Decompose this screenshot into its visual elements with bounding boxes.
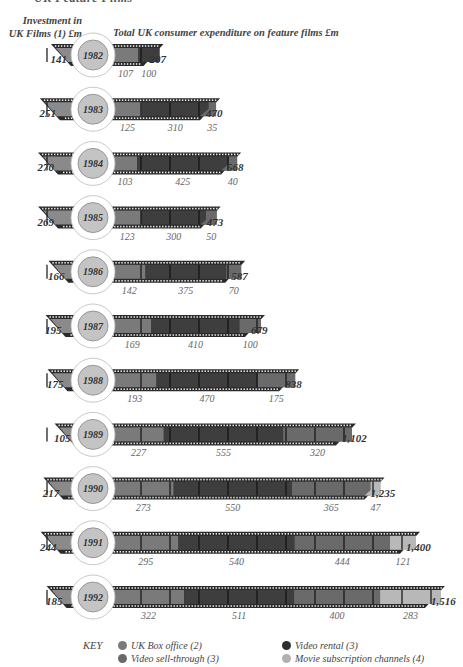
segment-value: 410 [188,339,203,350]
key-title: KEY [83,640,102,651]
total-value: 1,235 [371,487,396,499]
video-sell-through-swatch-icon [118,654,127,663]
key-item-movie-subscription: Movie subscription channels (4) [282,653,424,664]
segment-value: 100 [243,339,258,350]
total-value: 473 [206,216,224,228]
key-label-box-office: UK Box office (2) [131,640,202,651]
segment-value: 121 [395,556,410,567]
key-label-movie-subscription: Movie subscription channels (4) [295,653,424,664]
video-sell-through-segment [294,590,380,604]
segment-value: 125 [120,122,135,133]
segment-value: 169 [125,339,140,350]
key-label-video-rental: Video rental (3) [295,640,358,651]
investment-value: 175 [47,378,64,390]
year-label: 1986 [83,266,103,277]
total-value: 587 [231,270,248,282]
video-sell-through-segment [295,536,390,550]
video-rental-segment [174,482,292,496]
filmstrip-row-1982: 1982141207107100 [47,33,167,79]
year-label: 1983 [83,104,103,115]
video-rental-swatch-icon [282,641,291,650]
segment-value: 550 [225,502,240,513]
segment-value: 555 [216,447,231,458]
segment-value: 283 [403,610,418,621]
filmstrip-row-1987: 1987195679169410100 [45,304,268,350]
filmstrip-row-1984: 198427056810342540 [37,141,245,187]
total-value: 470 [205,107,223,119]
segment-value: 100 [141,68,156,79]
segment-value: 511 [232,610,246,621]
filmstrip-row-1989: 19891051,102227555320 [47,412,367,458]
investment-value: 251 [38,107,56,119]
filmstrip-row-1992: 19921851,516322511400283 [46,575,456,621]
segment-value: 70 [229,285,239,296]
investment-value: 195 [45,324,62,336]
key-item-video-sell-through: Video sell-through (3) [118,653,219,664]
video-rental-segment [151,319,239,333]
segment-value: 47 [370,502,381,513]
segment-value: 123 [120,231,135,242]
key-item-video-rental: Video rental (3) [282,640,358,651]
video-rental-segment [178,536,294,550]
total-value: 568 [227,161,244,173]
year-label: 1987 [83,321,104,332]
key-item-box-office: UK Box office (2) [118,640,202,651]
segment-value: 400 [330,610,345,621]
video-rental-segment [156,373,257,387]
total-value: 207 [149,53,167,65]
segment-value: 107 [118,68,134,79]
video-rental-segment [184,590,294,604]
investment-value: 269 [37,216,55,228]
segment-value: 300 [165,231,181,242]
investment-value: 185 [46,595,63,607]
filmstrip-row-1986: 198616658714237570 [47,250,248,296]
segment-value: 142 [122,285,137,296]
segment-value: 470 [200,393,215,404]
segment-value: 444 [335,556,350,567]
year-label: 1990 [83,483,103,494]
video-sell-through-segment [292,482,370,496]
investment-value: 244 [39,541,57,553]
filmstrip-chart: 1982141207107100198325147012531035198427… [0,0,463,667]
total-value: 1,102 [342,432,367,444]
segment-value: 193 [127,393,142,404]
segment-value: 175 [269,393,284,404]
year-label: 1982 [83,50,103,61]
total-value: 838 [285,378,302,390]
investment-value: 141 [50,53,67,65]
total-value: 679 [251,324,268,336]
investment-value: 166 [48,270,65,282]
filmstrip-row-1990: 19902171,23527355036547 [42,467,396,513]
year-label: 1984 [83,158,103,169]
key-label-video-sell-through: Video sell-through (3) [131,653,219,664]
segment-value: 103 [118,176,133,187]
movie-subscription-swatch-icon [282,654,291,663]
segment-value: 540 [229,556,244,567]
segment-value: 295 [138,556,153,567]
investment-value: 217 [42,487,60,499]
video-rental-segment [146,265,227,279]
year-label: 1991 [83,537,103,548]
segment-value: 425 [175,176,190,187]
total-value: 1,516 [431,595,456,607]
segment-value: 50 [206,231,216,242]
filmstrip-row-1983: 198325147012531035 [38,87,223,133]
investment-value: 105 [54,432,71,444]
segment-value: 365 [323,502,339,513]
video-rental-segment [141,211,206,225]
segment-value: 310 [167,122,183,133]
investment-value: 270 [37,161,55,173]
segment-value: 320 [309,447,325,458]
segment-value: 227 [131,447,147,458]
video-rental-segment [137,156,228,170]
video-rental-segment [164,427,283,441]
segment-value: 375 [177,285,193,296]
year-label: 1985 [83,212,103,223]
box-office-segment [105,590,184,604]
segment-value: 273 [136,502,151,513]
box-office-segment [105,536,178,550]
filmstrip-row-1991: 19912441,400295540444121 [39,521,431,567]
segment-value: 322 [140,610,156,621]
year-label: 1989 [83,429,103,440]
segment-value: 40 [228,176,238,187]
